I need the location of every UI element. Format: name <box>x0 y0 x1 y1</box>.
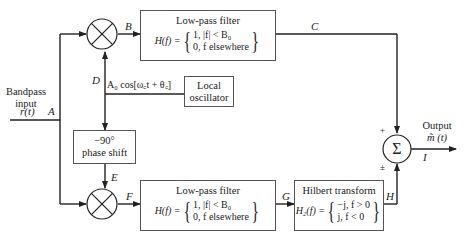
brace-left-icon: { <box>183 199 190 223</box>
oscillator-line1: Local <box>185 80 233 92</box>
node-c: C <box>311 20 318 32</box>
output-label-text: Output <box>414 120 460 132</box>
brace-left-icon: { <box>328 199 335 223</box>
node-g: G <box>282 190 290 202</box>
output-signal: m̃ (t) <box>414 132 460 144</box>
node-a: A <box>48 105 55 117</box>
lpf-bottom-fn: H(f) = <box>155 205 181 217</box>
lpf-top-fn: H(f) = <box>155 35 181 47</box>
oscillator-line2: oscillator <box>185 92 233 104</box>
phase-shift-block: −90° phase shift <box>73 130 136 164</box>
lpf-top-case1: 1, |f| < B₀ <box>193 29 249 41</box>
hilbert-case2: j, f < 0 <box>338 211 370 223</box>
input-signal: r(t) <box>20 105 35 117</box>
summer-sign-plusminus: ± <box>380 161 385 173</box>
summer-symbol: Σ <box>389 141 405 157</box>
node-e: E <box>111 171 118 183</box>
output-label: Output m̃ (t) <box>414 120 460 144</box>
lpf-bottom-case1: 1, |f| < B₀ <box>193 199 249 211</box>
lpf-top-case2: 0, f elsewhere <box>193 41 249 53</box>
oscillator-signal: A₀ cos[ω꜀t + θ꜀] <box>107 79 171 91</box>
node-b: B <box>125 20 132 32</box>
hilbert-case1: −j, f > 0 <box>338 199 370 211</box>
node-f: F <box>126 190 133 202</box>
node-h: H <box>386 190 394 202</box>
summer-sign-plus: + <box>380 124 385 136</box>
mixer-bottom <box>87 189 117 219</box>
brace-right-icon: } <box>251 199 258 223</box>
phase-shift-line1: −90° <box>74 135 135 147</box>
local-oscillator: Local oscillator <box>184 76 234 107</box>
mixer-top <box>87 19 117 49</box>
lowpass-filter-bottom: Low-pass filter H(f) = { 1, |f| < B₀ 0, … <box>140 180 276 231</box>
lpf-bottom-case2: 0, f elsewhere <box>193 211 249 223</box>
hilbert-transform-block: Hilbert transform H₂(f) = { −j, f > 0 j,… <box>294 180 384 231</box>
node-d: D <box>92 74 100 86</box>
brace-right-icon: } <box>251 29 258 53</box>
brace-right-icon: } <box>372 199 379 223</box>
lowpass-filter-top: Low-pass filter H(f) = { 1, |f| < B₀ 0, … <box>140 10 276 61</box>
node-i: I <box>423 151 427 163</box>
brace-left-icon: { <box>183 29 190 53</box>
input-label-line1: Bandpass <box>4 86 48 98</box>
phase-shift-line2: phase shift <box>74 147 135 159</box>
hilbert-title: Hilbert transform <box>295 185 383 197</box>
hilbert-fn: H₂(f) = <box>296 205 325 217</box>
